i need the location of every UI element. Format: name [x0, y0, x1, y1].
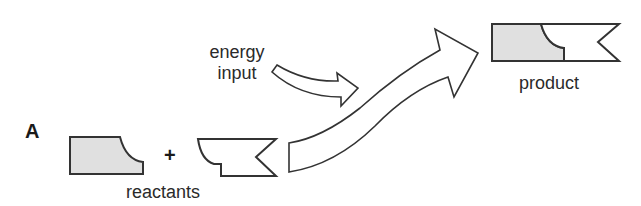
reaction-arrow-icon: [289, 29, 478, 172]
reactant-shape-1: [70, 137, 143, 174]
plus-sign: +: [164, 145, 176, 165]
energy-label-line1: energy: [200, 43, 274, 61]
reactant-shape-2: [198, 139, 276, 176]
diagram-canvas: [0, 0, 641, 206]
panel-label: A: [25, 121, 39, 141]
reactants-label: reactants: [126, 183, 200, 201]
energy-input-arrow-icon: [272, 65, 358, 106]
energy-input-label: energy input: [200, 43, 274, 82]
energy-label-line2: input: [200, 64, 274, 82]
product-label: product: [519, 74, 579, 92]
